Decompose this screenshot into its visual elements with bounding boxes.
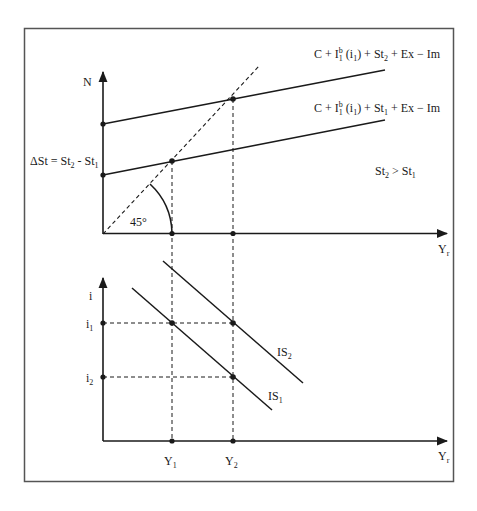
is2-label: IS2 xyxy=(277,345,292,361)
i2-label: i2 xyxy=(86,371,93,387)
y1-label: Y1 xyxy=(164,454,177,470)
i1-label: i1 xyxy=(86,317,93,333)
expenditure-line-lower xyxy=(103,120,385,175)
top-x-axis-label: Yr xyxy=(438,242,450,258)
equilibrium-point-2 xyxy=(230,96,236,102)
n-axis-label: N xyxy=(83,75,92,89)
lower-intercept-point xyxy=(100,172,105,177)
diagram-canvas: N Yr 45° ΔSt = St2 - St1 St2 > St1 C + I… xyxy=(0,0,477,511)
i1-axis-point xyxy=(100,320,105,325)
y2-axis-point-bottom xyxy=(230,438,235,443)
y2-axis-point-top xyxy=(230,231,235,236)
upper-line-label: C + Ib1 (i1) + St2 + Ex − Im xyxy=(314,46,441,63)
is1-point-y2-i2 xyxy=(230,374,236,380)
45-degree-arc xyxy=(150,184,172,233)
y2-label: Y2 xyxy=(225,454,238,470)
delta-st-label: ΔSt = St2 - St1 xyxy=(30,154,99,170)
is1-point-y1-i1 xyxy=(169,320,175,326)
condition-label: St2 > St1 xyxy=(375,164,416,180)
i-axis-label: i xyxy=(89,289,93,303)
bottom-x-axis-label: Yr xyxy=(438,449,450,465)
keynesian-cross-is-diagram: N Yr 45° ΔSt = St2 - St1 St2 > St1 C + I… xyxy=(0,0,477,511)
y1-axis-point-top xyxy=(169,231,174,236)
i2-axis-point xyxy=(100,374,105,379)
is1-curve xyxy=(132,288,272,410)
bottom-panel: i i1 i2 Y1 Y2 Yr IS2 IS1 xyxy=(86,261,450,470)
y1-axis-point-bottom xyxy=(169,438,174,443)
is2-point-y2-i1 xyxy=(230,320,236,326)
lower-line-label: C + Ib1 (i1) + St1 + Ex − Im xyxy=(314,100,441,117)
upper-intercept-point xyxy=(100,121,105,126)
angle-label: 45° xyxy=(130,215,147,229)
figure-frame xyxy=(25,29,454,482)
equilibrium-point-1 xyxy=(169,158,175,164)
is1-label: IS1 xyxy=(268,389,283,405)
